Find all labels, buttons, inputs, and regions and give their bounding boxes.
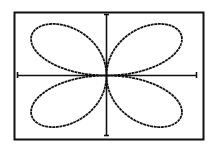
graph-screen [0, 0, 212, 146]
